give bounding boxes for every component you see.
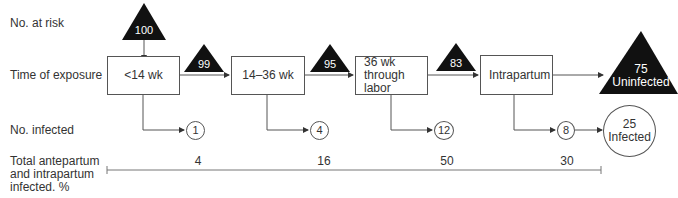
stage-box-intrapartum: Intrapartum	[480, 55, 553, 95]
uninfected-count: 75	[604, 63, 678, 75]
stage-label: Intrapartum	[489, 69, 550, 82]
row-label-total-line3: infected. %	[10, 181, 69, 194]
percent-stage4: 30	[555, 154, 579, 168]
at-risk-count-initial: 100	[124, 24, 164, 36]
at-risk-count-stage2: 95	[312, 58, 348, 70]
uninfected-label: Uninfected	[604, 76, 678, 88]
stage-box-14-36wk: 14–36 wk	[231, 56, 305, 95]
stage-label: <14 wk	[124, 69, 162, 82]
connector-lines	[0, 0, 678, 198]
at-risk-count-stage1: 99	[186, 58, 222, 70]
infected-count-stage2: 4	[310, 121, 329, 140]
stage-label-line3: labor	[364, 82, 405, 95]
percent-stage1: 4	[186, 154, 210, 168]
row-label-infected: No. infected	[10, 124, 74, 137]
percent-stage2: 16	[312, 154, 336, 168]
infected-count-stage4: 8	[557, 121, 575, 140]
stage-box-36wk-through-labor: 36 wk through labor	[355, 56, 428, 95]
vertical-transmission-flow-diagram: No. at risk Time of exposure No. infecte…	[0, 0, 678, 198]
stage-box-lt14wk: <14 wk	[107, 56, 180, 95]
row-label-at-risk: No. at risk	[10, 17, 64, 30]
infected-count-stage1: 1	[186, 121, 205, 140]
infected-outcome-circle: 25 Infected	[603, 105, 656, 157]
at-risk-count-stage3: 83	[438, 57, 474, 69]
percent-stage3: 50	[435, 154, 459, 168]
row-label-time-of-exposure: Time of exposure	[10, 69, 102, 82]
infected-total-label: Infected	[608, 131, 651, 144]
stage-label: 14–36 wk	[242, 69, 293, 82]
infected-count-stage3: 12	[434, 121, 454, 140]
